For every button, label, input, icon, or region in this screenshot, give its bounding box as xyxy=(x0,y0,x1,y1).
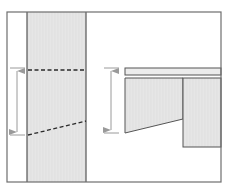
top-bar xyxy=(125,68,221,75)
right-dimension-arrow-icon xyxy=(104,68,119,133)
left-dimension-arrow-icon xyxy=(10,68,25,135)
diagram-svg xyxy=(0,0,229,191)
right-block xyxy=(183,78,221,147)
left-strip xyxy=(27,12,86,182)
diagram-canvas xyxy=(0,0,229,191)
left-block xyxy=(125,78,183,133)
